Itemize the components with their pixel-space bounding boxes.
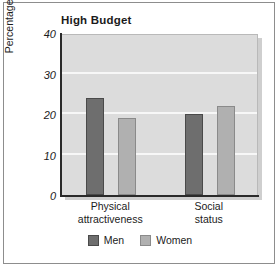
x-axis-line (60, 195, 259, 197)
bar-men-0 (86, 98, 104, 195)
y-axis-line (60, 33, 62, 197)
x-category-label: Socialstatus (149, 200, 269, 226)
bar-women-1 (217, 106, 235, 195)
chart-figure: High Budget Percentage of money spent 01… (0, 0, 280, 268)
y-axis-tick-labels: 010203040 (26, 0, 56, 268)
y-tick-label: 20 (30, 109, 56, 121)
bar-men-1 (185, 114, 203, 195)
x-category-label-line: status (149, 213, 269, 226)
chart-title: High Budget (61, 14, 132, 26)
legend-swatch-icon (88, 235, 99, 246)
legend-label: Men (104, 234, 124, 246)
chart-legend: MenWomen (0, 234, 280, 246)
legend-label: Women (156, 234, 192, 246)
legend-entry-men[interactable]: Men (88, 234, 124, 246)
gridline (62, 72, 257, 74)
legend-swatch-icon (140, 235, 151, 246)
plot-area (61, 34, 258, 196)
y-tick-label: 40 (30, 28, 56, 40)
y-tick-label: 30 (30, 69, 56, 81)
legend-entry-women[interactable]: Women (140, 234, 192, 246)
y-tick-label: 10 (30, 150, 56, 162)
x-category-label-line: Social (149, 200, 269, 213)
y-axis-title: Percentage of money spent (0, 0, 18, 70)
bar-women-0 (118, 118, 136, 195)
